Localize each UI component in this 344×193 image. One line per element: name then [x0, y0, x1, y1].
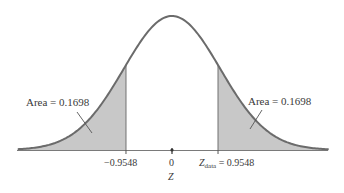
tick-label-pos-rest: = 0.9548: [216, 157, 254, 168]
tick-label-neg: −0.9548: [104, 157, 137, 169]
left-area-label: Area = 0.1698: [26, 96, 89, 108]
normal-curve: [18, 16, 329, 149]
tick-label-pos: Zdata = 0.9548: [199, 157, 254, 172]
right-tail-shaded-area: [218, 65, 329, 150]
x-axis-label: Z: [168, 171, 174, 183]
zero-marker: [170, 148, 173, 151]
tick-label-zero: 0: [169, 157, 174, 169]
tick-label-pos-sub: data: [205, 162, 217, 170]
right-area-label: Area = 0.1698: [248, 95, 311, 107]
